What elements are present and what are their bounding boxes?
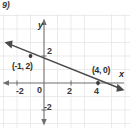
x-tick-label-4: 4 [94, 87, 99, 96]
point-marker-a [29, 54, 33, 58]
problem-number: 9) [2, 1, 10, 10]
point-marker-b [96, 81, 100, 85]
x-tick-label-neg2: -2 [16, 87, 23, 96]
y-axis-label: y [38, 21, 43, 30]
graph-screenshot: 9) y x -2 0 2 4 2 -2 (-1, 2) (4, 0) [0, 0, 130, 128]
point-label-b: (4, 0) [92, 66, 110, 75]
point-label-a: (-1, 2) [12, 62, 33, 71]
x-axis-arrow-left [3, 80, 10, 85]
x-tick-label-2: 2 [67, 87, 72, 96]
line-arrow-upper-left [5, 41, 13, 49]
line-arrow-lower-right [116, 84, 124, 92]
y-tick-label-2: 2 [47, 47, 52, 56]
x-tick-label-origin: 0 [37, 86, 42, 95]
x-axis-label: x [119, 70, 124, 79]
y-axis-arrow-down [41, 119, 46, 126]
y-tick-label-neg2: -2 [44, 103, 51, 112]
